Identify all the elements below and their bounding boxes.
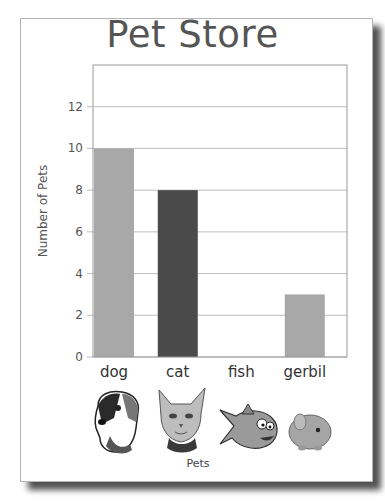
y-tick-label: 4 xyxy=(75,267,83,281)
x-axis-label: Pets xyxy=(186,457,209,470)
x-category-label: cat xyxy=(166,363,189,381)
x-category-label: fish xyxy=(228,363,255,381)
cat-face-icon xyxy=(159,388,205,453)
bar-gerbil xyxy=(285,294,325,357)
fish-icon xyxy=(220,404,277,448)
y-tick-label: 12 xyxy=(68,100,83,114)
bar-cat xyxy=(158,190,198,357)
y-tick-label: 0 xyxy=(75,350,83,364)
y-axis-label: Number of Pets xyxy=(36,165,50,258)
bar-dog xyxy=(94,148,134,357)
x-category-label: dog xyxy=(100,363,128,381)
bar-chart: 024681012 dogcatfishgerbil Number of Pet… xyxy=(0,0,385,501)
gerbil-icon xyxy=(289,414,331,451)
dog-face-icon xyxy=(95,392,138,454)
y-tick-label: 10 xyxy=(68,141,83,155)
y-tick-label: 2 xyxy=(75,308,83,322)
x-category-labels: dogcatfishgerbil xyxy=(100,363,326,381)
y-tick-label: 6 xyxy=(75,225,83,239)
x-category-label: gerbil xyxy=(283,363,326,381)
y-tick-labels: 024681012 xyxy=(68,100,83,364)
bars xyxy=(94,148,325,357)
y-tick-label: 8 xyxy=(75,183,83,197)
